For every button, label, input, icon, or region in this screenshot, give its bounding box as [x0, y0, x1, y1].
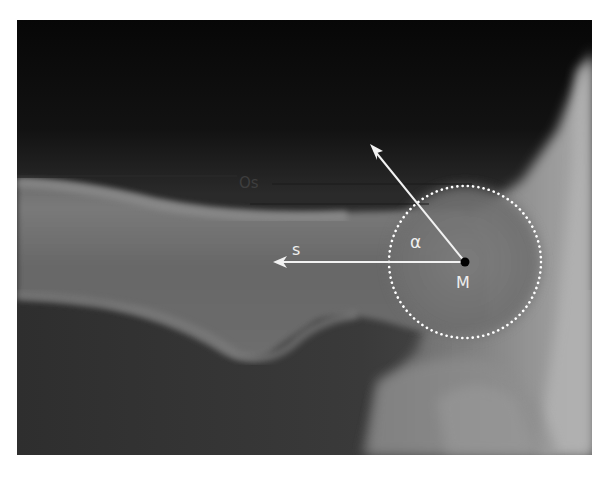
m-label: M: [456, 273, 470, 292]
os-label: Os: [239, 174, 259, 192]
alpha-label: α: [410, 232, 421, 252]
s-label: s: [292, 240, 300, 259]
radiograph-frame: Os s α M: [17, 20, 592, 455]
hip-xray-image: [17, 20, 592, 455]
